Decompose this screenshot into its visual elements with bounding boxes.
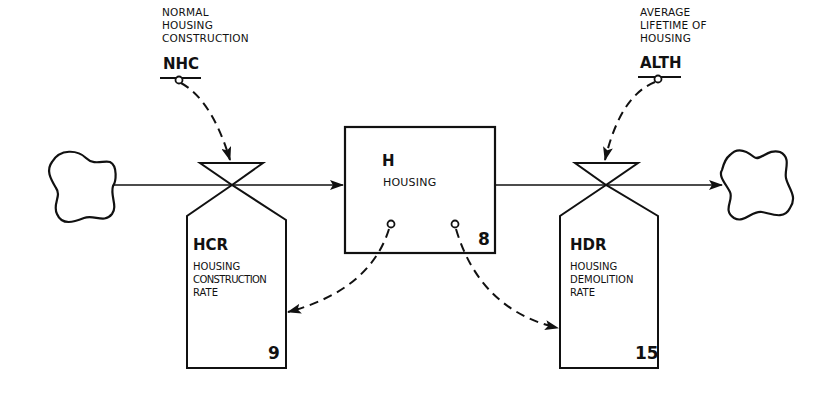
hcr-equation-number: 9	[268, 343, 280, 363]
housing-code: H	[382, 152, 395, 170]
hcr-name: HOUSING CONSTRUCTION RATE	[193, 260, 266, 299]
sink-cloud-icon	[721, 150, 793, 219]
alth-to-hdr-link	[605, 82, 655, 160]
source-cloud-icon	[49, 152, 116, 222]
hdr-name: HOUSING DEMOLITION RATE	[570, 260, 633, 299]
housing-equation-number: 8	[478, 229, 490, 249]
alth-desc-line-2: LIFETIME OF	[640, 19, 707, 32]
nhc-to-hcr-link	[181, 83, 230, 160]
hdr-name-line-2: DEMOLITION	[570, 273, 633, 286]
alth-code: ALTH	[640, 54, 681, 72]
hdr-code: HDR	[570, 236, 607, 254]
housing-level-box	[345, 127, 495, 253]
hdr-name-line-3: RATE	[570, 286, 633, 299]
housing-to-hcr-dot	[388, 221, 395, 228]
diagram-canvas	[0, 0, 838, 397]
alth-source-dot	[655, 76, 662, 83]
nhc-desc-line-1: NORMAL	[162, 6, 249, 19]
alth-description: AVERAGE LIFETIME OF HOUSING	[640, 6, 707, 45]
nhc-desc-line-2: HOUSING	[162, 19, 249, 32]
nhc-desc-line-3: CONSTRUCTION	[162, 32, 249, 45]
housing-to-hdr-dot	[452, 221, 459, 228]
alth-desc-line-1: AVERAGE	[640, 6, 707, 19]
hdr-valve-icon	[575, 163, 638, 185]
hcr-valve-icon	[200, 163, 263, 185]
housing-name: HOUSING	[383, 176, 436, 189]
hcr-name-line-3: RATE	[193, 286, 266, 299]
hcr-code: HCR	[193, 236, 228, 254]
hcr-name-line-1: HOUSING	[193, 260, 266, 273]
nhc-code: NHC	[163, 55, 199, 73]
alth-desc-line-3: HOUSING	[640, 32, 707, 45]
nhc-description: NORMAL HOUSING CONSTRUCTION	[162, 6, 249, 45]
hdr-name-line-1: HOUSING	[570, 260, 633, 273]
hcr-name-line-2: CONSTRUCTION	[193, 273, 266, 286]
hdr-equation-number: 15	[635, 343, 659, 363]
